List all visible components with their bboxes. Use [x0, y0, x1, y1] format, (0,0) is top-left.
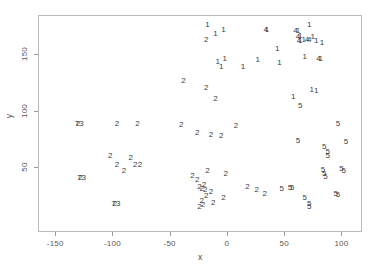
data-point-2: 2	[197, 203, 201, 211]
data-point-1: 1	[303, 53, 307, 61]
data-point-5: 5	[296, 137, 300, 145]
data-point-1: 1	[307, 21, 311, 29]
data-point-1: 1	[205, 21, 209, 29]
data-point-2: 2	[211, 199, 215, 207]
scatter-plot-screenshot: -150-100-5005010050100150 11111111111111…	[0, 0, 375, 270]
data-point-5: 5	[336, 120, 340, 128]
data-point-2: 2	[254, 186, 258, 194]
data-point-2: 2	[213, 95, 217, 103]
data-point-2: 2	[115, 161, 119, 169]
data-point-2: 2	[204, 36, 208, 44]
data-point-2: 2	[224, 170, 228, 178]
y-tick-mark	[34, 111, 38, 112]
x-tick-label: 100	[334, 239, 348, 248]
data-point-5: 5	[325, 152, 329, 160]
data-point-1: 1	[241, 63, 245, 71]
x-tick-label: -100	[104, 239, 121, 248]
data-point-3: 3	[79, 120, 83, 128]
data-point-2: 2	[122, 167, 126, 175]
data-point-1: 1	[291, 93, 295, 101]
data-point-2: 2	[262, 190, 266, 198]
data-point-1: 1	[256, 56, 260, 64]
data-point-4: 4	[307, 36, 311, 44]
x-tick-label: 0	[225, 239, 230, 248]
data-point-2: 2	[234, 122, 238, 130]
data-point-4: 4	[316, 55, 320, 63]
data-point-3: 3	[82, 174, 86, 182]
data-point-1: 1	[277, 59, 281, 67]
data-point-2: 2	[221, 194, 225, 202]
data-point-2: 2	[245, 183, 249, 191]
data-point-2: 2	[205, 167, 209, 175]
data-point-2: 2	[219, 132, 223, 140]
y-axis-title: y	[4, 114, 14, 118]
data-point-1: 1	[221, 26, 225, 34]
y-tick-mark	[34, 54, 38, 55]
data-point-1: 1	[222, 55, 226, 63]
data-point-5: 5	[307, 203, 311, 211]
data-point-2: 2	[108, 152, 112, 160]
data-point-1: 1	[219, 63, 223, 71]
x-tick-mark	[170, 232, 171, 236]
data-point-5: 5	[323, 173, 327, 181]
x-tick-mark	[112, 232, 113, 236]
data-point-5: 5	[290, 184, 294, 192]
data-point-3: 3	[116, 200, 120, 208]
data-point-5: 5	[341, 167, 345, 175]
y-tick-label: 50	[20, 162, 29, 171]
data-point-2: 2	[179, 121, 183, 129]
x-axis-title: x	[198, 252, 202, 262]
x-tick-mark	[284, 232, 285, 236]
data-point-2: 2	[209, 131, 213, 139]
data-point-5: 5	[336, 191, 340, 199]
x-tick-mark	[55, 232, 56, 236]
data-point-4: 4	[264, 26, 268, 34]
x-tick-label: -50	[164, 239, 176, 248]
x-tick-mark	[341, 232, 342, 236]
data-point-5: 5	[298, 102, 302, 110]
data-point-5: 5	[280, 185, 284, 193]
data-point-2: 2	[204, 84, 208, 92]
data-point-2: 2	[209, 188, 213, 196]
data-point-1: 1	[314, 87, 318, 95]
x-tick-label: 50	[279, 239, 288, 248]
data-point-2: 2	[135, 120, 139, 128]
data-point-1: 1	[275, 45, 279, 53]
data-point-2: 2	[181, 77, 185, 85]
data-point-2: 2	[138, 161, 142, 169]
data-point-2: 2	[195, 129, 199, 137]
data-point-5: 5	[344, 138, 348, 146]
data-point-2: 2	[115, 120, 119, 128]
x-tick-mark	[227, 232, 228, 236]
data-point-1: 1	[213, 30, 217, 38]
data-point-1: 1	[314, 37, 318, 45]
y-tick-label: 100	[20, 104, 29, 118]
data-point-4: 4	[297, 37, 301, 45]
y-tick-label: 150	[20, 47, 29, 61]
y-tick-mark	[34, 167, 38, 168]
x-tick-label: -150	[47, 239, 64, 248]
data-point-1: 1	[320, 39, 324, 47]
